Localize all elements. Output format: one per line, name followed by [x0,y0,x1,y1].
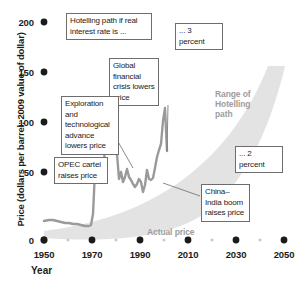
y-tick-label-100: 100 [8,117,34,128]
y-tick-label-0: 0 [8,235,34,246]
callout-hotelling-path: Hotelling path if real interest rate is … [66,13,152,40]
y-axis-title: Price (dollars per barrel: 2009 value of… [15,14,26,246]
range-of-hotelling-path-label: Range of Hotelling path [215,89,269,119]
callout-opec-cartel: OPEC cartel raises price [54,157,108,184]
y-tick-label-150: 150 [8,67,34,78]
x-tick-label-2030: 2030 [218,249,254,260]
x-tick-label-1990: 1990 [122,249,158,260]
callout-china-india: China–India boom raises price [201,184,250,222]
hotelling-oil-price-chart: Price (dollars per barrel: 2009 value of… [0,0,305,285]
y-tick-label-200: 200 [8,17,34,28]
callout-two-percent: ... 2 percent [235,146,283,173]
x-axis-title: Year [31,265,52,276]
x-tick-label-1950: 1950 [26,249,62,260]
callout-three-percent: ... 3 percent [175,23,223,50]
x-tick-label-2010: 2010 [170,249,206,260]
y-axis-tick-dots [41,19,48,244]
chart-plot-area [0,0,305,285]
x-tick-label-1970: 1970 [74,249,110,260]
actual-price-label: Actual price [147,227,194,237]
x-tick-label-2050: 2050 [266,249,302,260]
callout-exploration-technological: Exploration and technological advance lo… [61,96,119,155]
y-tick-label-50: 50 [8,167,34,178]
